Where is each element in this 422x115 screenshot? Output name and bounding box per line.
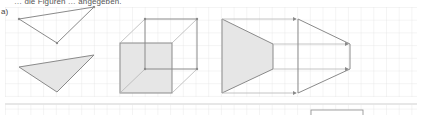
- exercise-figure-canvas: [0, 0, 422, 115]
- answer-box: [311, 110, 363, 115]
- grid-area: [5, 7, 417, 97]
